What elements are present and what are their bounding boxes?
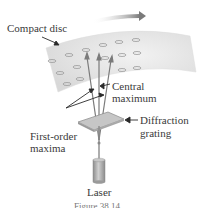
diffraction-grating [78, 112, 124, 132]
label-central-maximum-line2: maximum [112, 92, 157, 104]
rotation-arrow-icon [92, 11, 146, 22]
label-laser: Laser [87, 186, 111, 198]
laser-device [93, 158, 105, 184]
label-compact-disc: Compact disc [7, 22, 67, 34]
diffraction-diagram: Compact disc Central maximum First-order… [0, 0, 199, 208]
label-central-maximum-line1: Central [112, 80, 144, 92]
label-diffraction-line2: grating [140, 127, 171, 139]
label-first-order-line2: maxima [30, 142, 65, 154]
label-first-order-line1: First-order [30, 130, 77, 142]
figure-caption: Figure 38.14 [74, 201, 120, 208]
label-diffraction-line1: Diffraction [140, 114, 189, 126]
